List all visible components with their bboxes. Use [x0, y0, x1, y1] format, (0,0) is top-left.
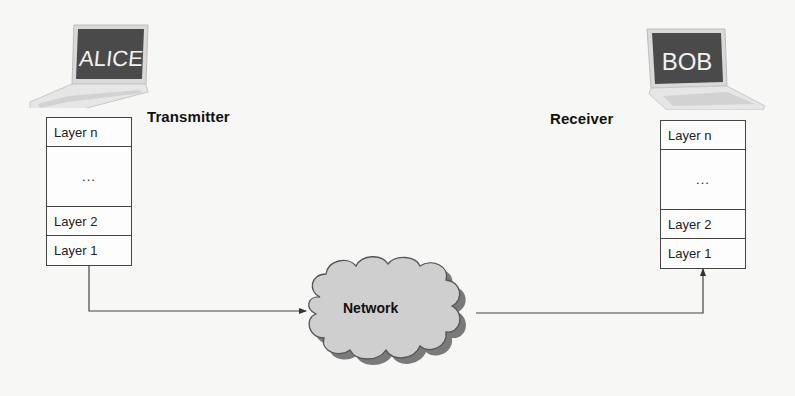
receiver-layer-2: Layer 2	[661, 210, 745, 239]
transmitter-layer-ellipsis: ...	[47, 147, 131, 207]
receiver-label: Receiver	[550, 110, 613, 127]
svg-text:ALICE: ALICE	[78, 46, 144, 71]
transmitter-layer-2: Layer 2	[47, 207, 131, 236]
diagram-canvas: ALICE BOB Transmitter Receiver Layer n .…	[0, 0, 795, 396]
network-label: Network	[343, 300, 398, 316]
transmitter-layer-stack: Layer n ... Layer 2 Layer 1	[46, 117, 132, 266]
alice-laptop-icon: ALICE	[28, 22, 152, 108]
transmitter-to-network-arrow	[89, 265, 306, 311]
transmitter-label: Transmitter	[147, 108, 230, 125]
receiver-layer-n: Layer n	[661, 121, 745, 150]
bob-laptop-icon: BOB	[643, 26, 767, 110]
svg-text:BOB: BOB	[662, 48, 713, 75]
receiver-layer-1: Layer 1	[661, 239, 745, 268]
network-to-receiver-arrow	[476, 269, 703, 313]
receiver-layer-stack: Layer n ... Layer 2 Layer 1	[660, 120, 746, 269]
transmitter-layer-n: Layer n	[47, 118, 131, 147]
transmitter-layer-1: Layer 1	[47, 236, 131, 265]
receiver-layer-ellipsis: ...	[661, 150, 745, 210]
